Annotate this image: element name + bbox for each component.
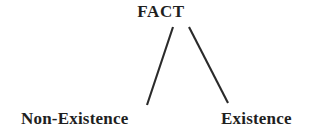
edge-fact-to-existence <box>189 27 228 103</box>
node-existence-label: Existence <box>221 109 292 128</box>
node-non-existence-label: Non-Existence <box>21 109 128 128</box>
edge-fact-to-non-existence <box>147 27 173 105</box>
fact-tree-diagram: FACT Non-Existence Existence <box>0 0 320 136</box>
node-non-existence: Non-Existence <box>21 108 128 129</box>
node-fact-label: FACT <box>137 2 184 22</box>
node-existence: Existence <box>221 108 292 129</box>
node-fact: FACT <box>0 2 320 22</box>
